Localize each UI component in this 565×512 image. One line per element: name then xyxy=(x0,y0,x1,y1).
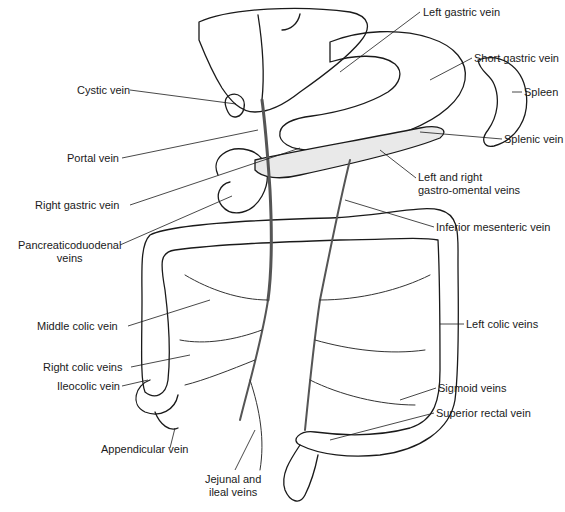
label-superior-rectal-vein: Superior rectal vein xyxy=(436,407,531,420)
label-middle-colic-vein: Middle colic vein xyxy=(37,320,118,333)
inferior-mesenteric-vein xyxy=(305,160,350,430)
label-left-and-right-gastro-omental-veins: Left and right gastro-omental veins xyxy=(418,171,520,197)
label-left-colic-veins: Left colic veins xyxy=(466,318,538,331)
label-inferior-mesenteric-vein: Inferior mesenteric vein xyxy=(436,221,550,234)
gallbladder xyxy=(225,94,244,117)
label-jejunal-and-ileal-veins: Jejunal and ileal veins xyxy=(205,473,261,499)
label-sigmoid-veins: Sigmoid veins xyxy=(438,382,506,395)
label-left-gastric-vein: Left gastric vein xyxy=(423,6,500,19)
label-right-gastric-vein: Right gastric vein xyxy=(35,199,119,212)
label-spleen: Spleen xyxy=(524,86,558,99)
cecum xyxy=(136,380,178,414)
appendix xyxy=(155,412,178,429)
label-ileocolic-vein: Ileocolic vein xyxy=(57,380,120,393)
label-appendicular-vein: Appendicular vein xyxy=(101,443,188,456)
label-splenic-vein: Splenic vein xyxy=(504,133,563,146)
pancreas xyxy=(255,127,444,178)
label-cystic-vein: Cystic vein xyxy=(77,84,130,97)
rectum xyxy=(284,445,318,501)
label-pancreaticoduodenal-veins: Pancreaticoduodenal veins xyxy=(18,239,121,265)
liver xyxy=(199,8,367,112)
label-right-colic-veins: Right colic veins xyxy=(43,361,122,374)
label-portal-vein: Portal vein xyxy=(67,152,119,165)
portal-vein-trunk xyxy=(262,100,271,300)
label-short-gastric-vein: Short gastric vein xyxy=(474,52,559,65)
